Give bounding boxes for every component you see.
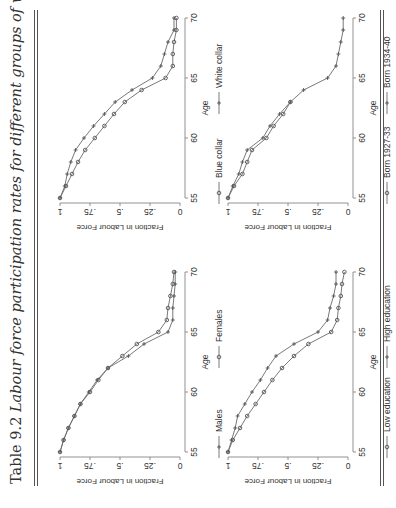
axes: 0.25.5.75155606570Fraction in Labour For… bbox=[225, 13, 378, 232]
data-point bbox=[233, 426, 237, 430]
x-tick-label: 60 bbox=[189, 133, 199, 143]
y-axis-title: Fraction in Labour Force bbox=[76, 223, 164, 232]
x-tick-label: 55 bbox=[357, 447, 367, 457]
y-axis-title: Fraction in Labour Force bbox=[76, 477, 164, 486]
x-axis-title: Age bbox=[368, 100, 378, 115]
y-tick-label: 1 bbox=[225, 207, 230, 217]
data-point bbox=[328, 306, 332, 310]
series-high-education bbox=[226, 270, 338, 454]
y-tick-label: .25 bbox=[312, 461, 324, 471]
bottom-double-rule bbox=[380, 10, 384, 486]
series-white-collar bbox=[58, 16, 176, 200]
x-tick-label: 70 bbox=[357, 267, 367, 277]
chart-panel-cohort: 0.25.5.75155606570Fraction in Labour For… bbox=[208, 2, 376, 252]
data-point bbox=[336, 52, 340, 56]
series-females bbox=[58, 270, 176, 454]
data-point bbox=[334, 282, 338, 286]
y-tick-label: .5 bbox=[116, 207, 123, 217]
y-tick-label: .5 bbox=[284, 461, 291, 471]
data-point bbox=[171, 306, 175, 310]
x-tick-label: 55 bbox=[189, 193, 199, 203]
chart-panel-gender: 0.25.5.75155606570Fraction in Labour For… bbox=[40, 256, 208, 506]
x-tick-label: 60 bbox=[357, 133, 367, 143]
x-tick-label: 70 bbox=[357, 13, 367, 23]
x-tick-label: 70 bbox=[189, 267, 199, 277]
y-tick-label: 0 bbox=[177, 461, 182, 471]
data-point bbox=[166, 330, 170, 334]
x-tick-label: 65 bbox=[357, 327, 367, 337]
y-tick-label: 1 bbox=[57, 461, 62, 471]
data-point bbox=[69, 160, 73, 164]
table-title: Table 9.2 Labour force participation rat… bbox=[8, 0, 24, 484]
y-tick-label: .5 bbox=[116, 461, 123, 471]
y-tick-label: 0 bbox=[345, 207, 350, 217]
series-males bbox=[58, 270, 177, 454]
x-tick-label: 55 bbox=[189, 447, 199, 457]
axes: 0.25.5.75155606570Fraction in Labour For… bbox=[57, 13, 210, 232]
x-tick-label: 60 bbox=[189, 387, 199, 397]
data-point bbox=[334, 270, 338, 274]
axes: 0.25.5.75155606570Fraction in Labour For… bbox=[225, 267, 378, 486]
y-tick-label: .5 bbox=[284, 207, 291, 217]
data-point bbox=[166, 40, 170, 44]
series-blue-collar bbox=[58, 16, 178, 200]
x-tick-label: 70 bbox=[189, 13, 199, 23]
y-tick-label: .25 bbox=[144, 461, 156, 471]
series-born-1927-33 bbox=[226, 100, 292, 200]
y-tick-label: .75 bbox=[84, 461, 96, 471]
y-tick-label: .25 bbox=[144, 207, 156, 217]
chart-panel-occupation: 0.25.5.75155606570Fraction in Labour For… bbox=[40, 2, 208, 252]
x-tick-label: 55 bbox=[357, 193, 367, 203]
x-tick-label: 65 bbox=[357, 73, 367, 83]
data-point bbox=[236, 414, 240, 418]
data-point bbox=[240, 160, 244, 164]
top-double-rule bbox=[34, 10, 38, 486]
legend-marker bbox=[385, 101, 389, 105]
series-low-education bbox=[226, 270, 346, 454]
y-tick-label: .75 bbox=[252, 207, 264, 217]
x-axis-title: Age bbox=[368, 354, 378, 369]
data-point bbox=[171, 318, 175, 322]
y-tick-label: .75 bbox=[252, 461, 264, 471]
data-point bbox=[243, 402, 247, 406]
data-point bbox=[332, 294, 336, 298]
data-point bbox=[65, 172, 69, 176]
data-point bbox=[162, 52, 166, 56]
y-tick-label: 1 bbox=[225, 461, 230, 471]
y-axis-title: Fraction in Labour Force bbox=[244, 223, 332, 232]
data-point bbox=[339, 40, 343, 44]
legend-marker bbox=[385, 355, 389, 359]
data-point bbox=[341, 16, 345, 20]
y-tick-label: .25 bbox=[312, 207, 324, 217]
axes: 0.25.5.75155606570Fraction in Labour For… bbox=[57, 267, 210, 486]
y-tick-label: 0 bbox=[177, 207, 182, 217]
y-tick-label: 1 bbox=[57, 207, 62, 217]
x-tick-label: 60 bbox=[357, 387, 367, 397]
data-point bbox=[341, 28, 345, 32]
x-tick-label: 65 bbox=[189, 73, 199, 83]
y-tick-label: 0 bbox=[345, 461, 350, 471]
chart-panel-education: 0.25.5.75155606570Fraction in Labour For… bbox=[208, 256, 376, 506]
data-point bbox=[237, 172, 241, 176]
x-tick-label: 65 bbox=[189, 327, 199, 337]
table-caption: Labour force participation rates for dif… bbox=[8, 0, 24, 412]
y-axis-title: Fraction in Labour Force bbox=[244, 477, 332, 486]
y-tick-label: .75 bbox=[84, 207, 96, 217]
table-number: Table 9.2 bbox=[8, 417, 24, 484]
page: Table 9.2 Labour force participation rat… bbox=[0, 0, 396, 508]
